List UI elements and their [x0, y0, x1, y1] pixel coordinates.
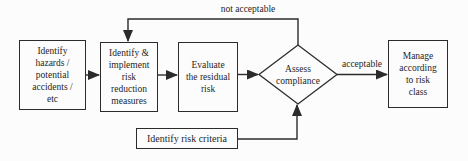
node-identify-hazards: Identify hazards / potential accidents /… [19, 40, 86, 110]
node-identify-risk-criteria: Identify risk criteria [136, 128, 238, 149]
node-risk-reduction-measures: Identify & implement risk reduction meas… [100, 42, 158, 112]
connector-criteria-to-assess [238, 105, 297, 139]
node-manage-risk-class: Manage according to risk class [388, 40, 448, 108]
flowchart-canvas: Identify hazards / potential accidents /… [0, 0, 468, 161]
node-assess-compliance: Assess compliance [262, 62, 334, 88]
edge-label-not-acceptable: not acceptable [214, 4, 282, 15]
edge-label-acceptable: acceptable [337, 59, 387, 70]
node-evaluate-residual-risk: Evaluate the residual risk [178, 42, 238, 112]
